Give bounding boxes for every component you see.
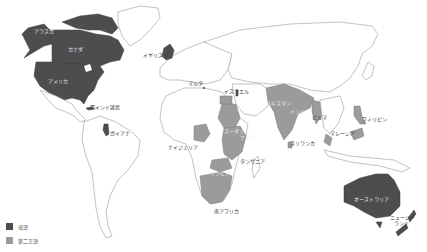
label-zambia: ザンビア [210, 170, 230, 176]
label-alaska: アラスカ [34, 28, 54, 34]
label-tanzania: タンザニア [240, 158, 265, 164]
label-israel: イスラエル [224, 88, 249, 94]
usa [34, 62, 104, 104]
label-philippines: フィリピン [362, 116, 387, 122]
label-sri-lanka: スリランカ [290, 140, 315, 146]
canada [50, 30, 124, 66]
legend-label-second: 第二言語 [18, 237, 38, 244]
legend-item-native: 母語 [6, 222, 38, 231]
greenland [118, 6, 160, 46]
south-africa [200, 172, 232, 204]
label-uk: イギリス [143, 52, 163, 58]
label-kenya: ケニア [240, 134, 255, 140]
indonesia [324, 150, 410, 172]
legend-label-native: 母語 [18, 223, 28, 230]
label-new-zealand-2: ランド [394, 220, 409, 226]
legend-swatch-native [6, 223, 13, 230]
label-guyana: ガイアナ [110, 130, 130, 136]
world-map [0, 0, 427, 252]
tasmania [376, 222, 382, 228]
malta [203, 87, 205, 89]
legend-item-second: 第二言語 [6, 236, 38, 245]
label-australia: オーストラリア [354, 196, 389, 202]
uk [162, 44, 174, 60]
label-nigeria: ナイジェリア [168, 144, 198, 150]
japan [362, 62, 374, 80]
egypt [220, 96, 232, 104]
legend: 母語 第二言語 [6, 222, 38, 250]
label-west-indies: 西インド諸島 [90, 104, 120, 110]
label-india: インド [290, 108, 305, 114]
legend-swatch-second [6, 237, 13, 244]
label-burma: ビルマ [312, 114, 327, 120]
label-malaysia: マレーシア [330, 130, 355, 136]
label-canada: カナダ [68, 46, 83, 52]
label-pakistan: パキスタン [266, 100, 291, 106]
label-usa: アメリカ [48, 78, 68, 84]
label-south-africa: 南アフリカ [214, 208, 239, 214]
label-malta: マルタ [188, 80, 203, 86]
